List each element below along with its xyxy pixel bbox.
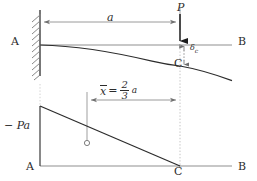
label-end-B-top: B — [238, 36, 246, 47]
xbar-symbol: x — [100, 85, 106, 97]
fixed-support-wall — [32, 10, 40, 80]
fraction-denominator: 3 — [120, 91, 128, 101]
fraction-two-thirds: 2 3 — [120, 80, 128, 101]
fraction-numerator: 2 — [120, 80, 128, 90]
label-point-C-bottom: C — [174, 166, 182, 177]
label-support-A-top: A — [11, 36, 19, 47]
label-load-P: P — [177, 2, 184, 13]
label-support-A-bottom: A — [26, 161, 34, 172]
label-deflection-delta: δc — [190, 44, 198, 54]
label-moment-minus-Pa: − Pa — [4, 120, 30, 131]
label-end-B-bottom: B — [238, 161, 246, 172]
fraction-tail-a: a — [132, 86, 137, 95]
deflection-curve — [40, 45, 232, 81]
wall-hatching — [32, 15, 40, 80]
label-point-C-top: C — [174, 58, 182, 69]
cantilever-beam-figure: A B C P a δc − Pa A B C x = 2 3 a — [0, 0, 257, 181]
bending-moment-diagram — [40, 106, 232, 166]
formula-centroid-xbar: x = 2 3 a — [100, 80, 137, 101]
equals-sign: = — [108, 85, 117, 96]
delta-subscript: c — [195, 47, 198, 54]
label-span-a: a — [107, 12, 114, 23]
moment-sloped-edge — [40, 106, 180, 166]
